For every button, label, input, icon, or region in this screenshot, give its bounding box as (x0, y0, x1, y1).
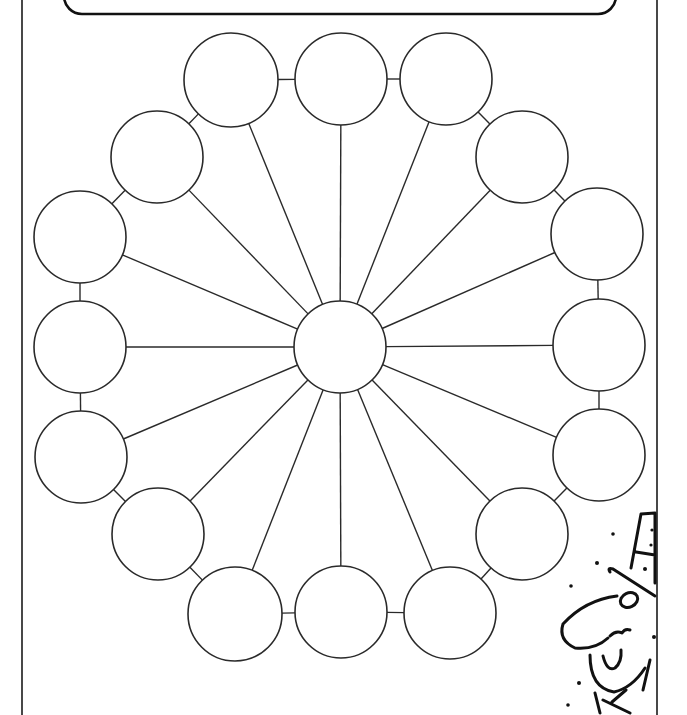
bubble-link-line (554, 190, 565, 201)
spoke-line (340, 393, 341, 566)
outer-bubble-10[interactable] (295, 566, 387, 658)
outer-bubble-2[interactable] (295, 33, 387, 125)
spoke-line (340, 125, 341, 301)
outer-bubble-3[interactable] (400, 33, 492, 125)
bubble-link-line (112, 190, 125, 204)
bubble-link-line (481, 568, 491, 579)
outer-bubble-6[interactable] (553, 299, 645, 391)
outer-bubble-5[interactable] (551, 188, 643, 280)
spoke-line (189, 190, 308, 314)
spoke-line (123, 365, 297, 439)
spoke-line (249, 124, 323, 305)
spoke-line (372, 190, 490, 314)
bubble-link-line (478, 112, 490, 124)
bubble-link-line (189, 114, 199, 124)
outer-bubble-14[interactable] (34, 301, 126, 393)
spoke-line (357, 122, 429, 304)
spoke-line (122, 255, 297, 329)
spoke-line (386, 345, 553, 346)
spoke-line (382, 253, 555, 329)
outer-bubble-13[interactable] (35, 411, 127, 503)
outer-bubble-11[interactable] (188, 567, 282, 661)
spoke-line (252, 390, 323, 570)
outer-bubble-1[interactable] (184, 33, 278, 127)
bubble-link-line (114, 490, 126, 502)
center-hub-circle[interactable] (294, 301, 386, 393)
spoke-line (372, 380, 490, 501)
title-box[interactable] (64, 0, 616, 14)
outer-bubble-15[interactable] (34, 191, 126, 283)
outer-bubble-12[interactable] (112, 488, 204, 580)
bubble-link-line (554, 488, 567, 501)
outer-bubble-9[interactable] (404, 567, 496, 659)
spoke-line (382, 365, 556, 438)
outer-bubble-4[interactable] (476, 111, 568, 203)
spoke-line (190, 380, 308, 501)
bubble-link-line (190, 567, 203, 580)
outer-bubble-16[interactable] (111, 111, 203, 203)
wheel-organizer-canvas (0, 0, 687, 715)
outer-bubble-7[interactable] (553, 409, 645, 501)
spoke-line (358, 390, 433, 571)
outer-bubble-8[interactable] (476, 488, 568, 580)
cartoon-man-icon (562, 513, 656, 713)
